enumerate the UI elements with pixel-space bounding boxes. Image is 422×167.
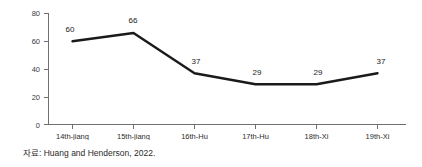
source-note: 자료: Huang and Henderson, 2022. — [23, 146, 155, 158]
x-tick-label: 16th-Hu — [181, 132, 208, 140]
data-label: 29 — [314, 68, 323, 77]
data-label: 37 — [192, 57, 201, 66]
y-tick-label: 40 — [32, 65, 40, 74]
line-chart: 80 60 40 20 0 — [0, 0, 422, 140]
x-tick-label: 18th-Xi — [305, 132, 329, 140]
x-axis — [49, 125, 407, 130]
data-label: 29 — [253, 68, 262, 77]
chart-figure: 80 60 40 20 0 — [0, 0, 422, 167]
y-axis: 80 60 40 20 0 — [32, 9, 49, 130]
x-tick-label: 19th-Xi — [366, 132, 390, 140]
y-tick-label: 0 — [36, 121, 40, 130]
x-tick-label: 17th-Hu — [242, 132, 269, 140]
x-axis-labels: 14th-jiang 15th-jiang 16th-Hu 17th-Hu 18… — [56, 132, 390, 140]
series-line — [73, 33, 378, 84]
x-tick-label: 15th-jiang — [117, 132, 150, 140]
y-tick-label: 80 — [32, 9, 40, 18]
data-label: 37 — [377, 57, 386, 66]
chart-svg: 80 60 40 20 0 — [0, 0, 422, 140]
data-labels: 60 66 37 29 29 37 — [66, 16, 386, 77]
y-tick-label: 20 — [32, 93, 40, 102]
y-tick-label: 60 — [32, 37, 40, 46]
data-label: 66 — [129, 16, 138, 25]
x-tick-label: 14th-jiang — [56, 132, 89, 140]
data-label: 60 — [66, 25, 75, 34]
